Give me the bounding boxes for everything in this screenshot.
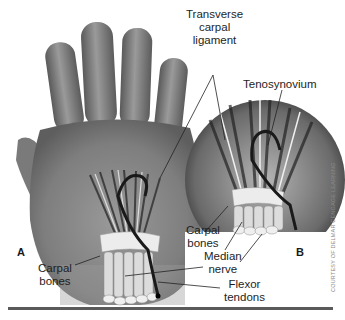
label-carpal-bones-a: Carpal bones (38, 262, 72, 288)
label-line: nerve (204, 263, 242, 276)
label-line: bones (38, 275, 72, 288)
label-flexor-tendons: Flexor tendons (224, 278, 265, 304)
label-line: Carpal (186, 224, 220, 237)
label-transverse-carpal-ligament: Transverse carpal ligament (186, 8, 243, 47)
label-median-nerve: Median nerve (204, 250, 242, 276)
panel-label-b: B (296, 246, 304, 258)
label-line: Transverse (186, 8, 243, 21)
label-carpal-bones-b: Carpal bones (186, 224, 220, 250)
label-line: bones (186, 237, 220, 250)
label-line: Median (204, 250, 242, 263)
label-line: tendons (224, 291, 265, 304)
bottom-rule (8, 307, 333, 310)
label-line: ligament (186, 34, 243, 47)
label-tenosynovium: Tenosynovium (243, 78, 317, 91)
panel-label-a: A (17, 246, 25, 258)
label-line: Flexor (224, 278, 265, 291)
label-line: Carpal (38, 262, 72, 275)
carpal-tunnel-figure: Transverse carpal ligament Tenosynovium … (0, 0, 345, 320)
label-line: carpal (186, 21, 243, 34)
image-credit: COURTESY OF DELMAR CENGAGE LEARNING (330, 162, 336, 292)
